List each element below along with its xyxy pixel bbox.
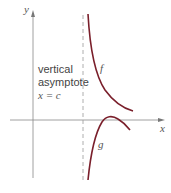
curve-f-label: f <box>100 62 105 74</box>
asymptote-label-line1: vertical <box>38 63 73 75</box>
curve-g <box>88 117 130 180</box>
asymptote-label-line2: asymptote <box>38 76 89 88</box>
curve-f <box>88 14 133 111</box>
y-axis-label: y <box>23 3 29 15</box>
asymptote-diagram: y x vertical asymptote x = c f g <box>0 0 171 193</box>
x-axis-label: x <box>159 122 165 134</box>
curve-g-label: g <box>98 138 104 150</box>
asymptote-equation: x = c <box>37 89 61 101</box>
y-axis-arrow-icon <box>31 10 35 17</box>
y-axis: y <box>23 3 35 178</box>
